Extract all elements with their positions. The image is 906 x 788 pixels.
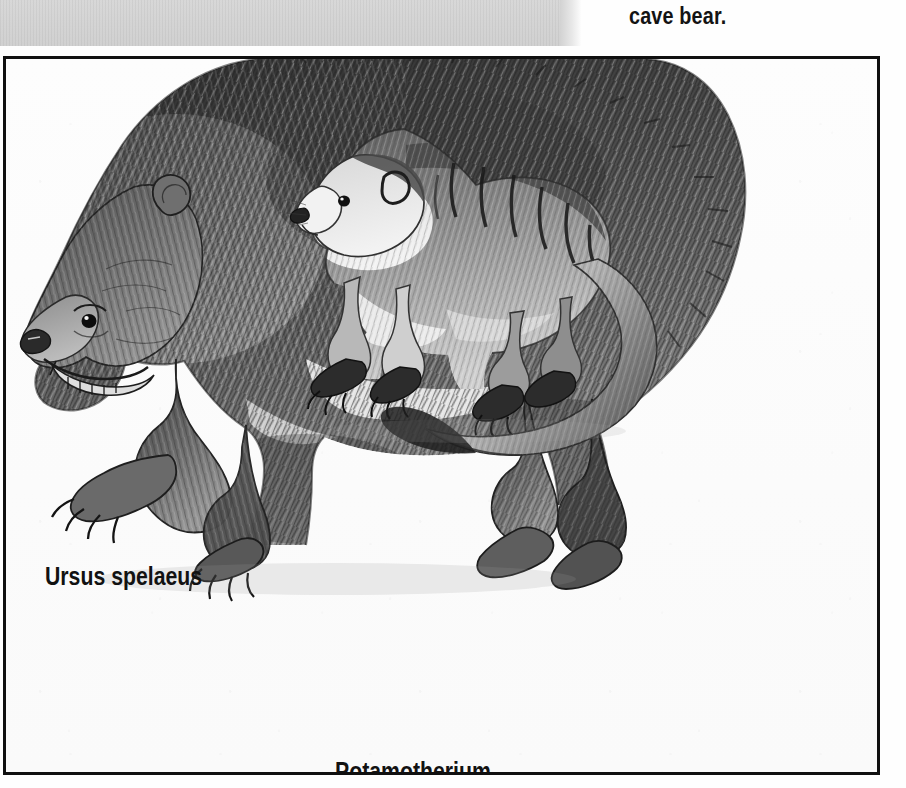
specimen-label-potamotherium: Potamotherium bbox=[335, 757, 491, 775]
illustration-frame: Ursus spelaeus Potamotherium bbox=[3, 56, 880, 775]
caption-text: cave bear. bbox=[629, 2, 726, 30]
scan-gutter-fade bbox=[560, 0, 582, 46]
specimens-drawing bbox=[6, 59, 877, 772]
bear-eye bbox=[82, 314, 97, 328]
specimen-label-ursus-spelaeus: Ursus spelaeus bbox=[45, 562, 202, 591]
book-page: cave bear. bbox=[0, 0, 906, 788]
illustration-artwork bbox=[6, 59, 877, 772]
otter-eye bbox=[338, 195, 350, 206]
scan-gutter-band bbox=[0, 0, 578, 46]
